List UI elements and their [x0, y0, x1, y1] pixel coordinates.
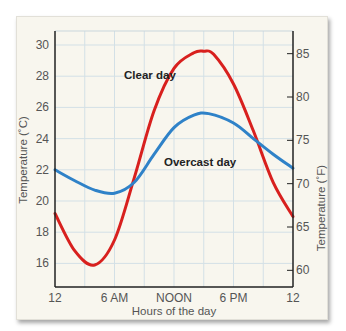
annotation-clear-day: Clear day: [124, 69, 176, 81]
y-tick-label-left: 30: [36, 38, 50, 52]
y-tick-label-right: 70: [296, 177, 310, 191]
y-tick-label-left: 18: [36, 225, 50, 239]
x-axis-label: Hours of the day: [132, 305, 217, 317]
annotation-overcast-day: Overcast day: [164, 156, 237, 168]
y-axis-label-right: Temperature (˚F): [315, 165, 327, 251]
y-tick-label-right: 65: [296, 220, 310, 234]
y-tick-label-left: 16: [36, 256, 50, 270]
x-tick-label: 6 PM: [219, 291, 247, 305]
y-tick-label-right: 75: [296, 133, 310, 147]
y-tick-label-left: 22: [36, 163, 50, 177]
y-tick-label-left: 28: [36, 69, 50, 83]
y-tick-label-left: 26: [36, 100, 50, 114]
x-tick-label: 6 AM: [101, 291, 128, 305]
y-tick-label-right: 80: [296, 90, 310, 104]
temperature-chart: 1618202224262830606570758085126 AMNOON6 …: [0, 0, 346, 331]
y-axis-label-left: Temperature (˚C): [17, 116, 29, 204]
y-tick-label-right: 85: [296, 47, 310, 61]
x-tick-label: 12: [286, 291, 300, 305]
y-tick-label-left: 20: [36, 194, 50, 208]
x-tick-label: NOON: [156, 291, 192, 305]
y-tick-label-left: 24: [36, 132, 50, 146]
x-tick-label: 12: [48, 291, 62, 305]
y-tick-label-right: 60: [296, 263, 310, 277]
